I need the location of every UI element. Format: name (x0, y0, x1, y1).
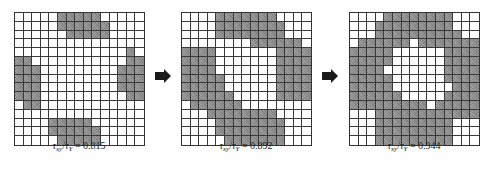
empty-cell (67, 57, 76, 66)
filled-cell (359, 75, 368, 84)
filled-cell (376, 48, 385, 57)
empty-cell (135, 39, 144, 48)
filled-cell (118, 83, 127, 92)
filled-cell (216, 119, 225, 128)
filled-cell (445, 127, 454, 136)
empty-cell (234, 75, 243, 84)
filled-cell (376, 83, 385, 92)
filled-cell (259, 110, 268, 119)
empty-cell (118, 31, 127, 40)
filled-cell (367, 75, 376, 84)
empty-cell (101, 110, 110, 119)
empty-cell (118, 57, 127, 66)
filled-cell (402, 22, 411, 31)
empty-cell (462, 22, 471, 31)
empty-cell (410, 57, 419, 66)
filled-cell (199, 83, 208, 92)
filled-cell (419, 110, 428, 119)
filled-cell (24, 92, 33, 101)
filled-cell (277, 83, 286, 92)
empty-cell (32, 119, 41, 128)
filled-cell (199, 92, 208, 101)
filled-cell (359, 48, 368, 57)
filled-cell (268, 22, 277, 31)
empty-cell (453, 119, 462, 128)
filled-cell (427, 110, 436, 119)
empty-cell (419, 75, 428, 84)
empty-cell (118, 39, 127, 48)
filled-cell (277, 127, 286, 136)
filled-cell (127, 66, 136, 75)
filled-cell (445, 13, 454, 22)
filled-cell (453, 66, 462, 75)
empty-cell (285, 22, 294, 31)
filled-cell (49, 119, 58, 128)
empty-cell (427, 83, 436, 92)
empty-cell (67, 92, 76, 101)
empty-cell (251, 92, 260, 101)
empty-cell (24, 127, 33, 136)
filled-cell (302, 48, 311, 57)
empty-cell (259, 83, 268, 92)
empty-cell (259, 57, 268, 66)
empty-cell (49, 101, 58, 110)
filled-cell (24, 57, 33, 66)
filled-cell (470, 57, 479, 66)
empty-cell (41, 119, 50, 128)
empty-cell (15, 48, 24, 57)
empty-cell (127, 119, 136, 128)
filled-cell (285, 92, 294, 101)
empty-cell (127, 22, 136, 31)
filled-cell (445, 39, 454, 48)
filled-cell (376, 31, 385, 40)
filled-cell (32, 92, 41, 101)
empty-cell (462, 119, 471, 128)
empty-cell (84, 101, 93, 110)
filled-cell (462, 110, 471, 119)
filled-cell (92, 22, 101, 31)
empty-cell (427, 101, 436, 110)
filled-cell (376, 127, 385, 136)
empty-cell (216, 48, 225, 57)
filled-cell (234, 13, 243, 22)
filled-cell (427, 127, 436, 136)
filled-cell (470, 101, 479, 110)
empty-cell (110, 83, 119, 92)
empty-cell (251, 75, 260, 84)
filled-cell (350, 66, 359, 75)
filled-cell (470, 66, 479, 75)
empty-cell (350, 13, 359, 22)
empty-cell (182, 110, 191, 119)
empty-cell (118, 127, 127, 136)
empty-cell (462, 13, 471, 22)
filled-cell (470, 48, 479, 57)
filled-cell (453, 48, 462, 57)
empty-cell (58, 101, 67, 110)
empty-cell (268, 66, 277, 75)
empty-cell (234, 92, 243, 101)
filled-cell (285, 39, 294, 48)
filled-cell (84, 22, 93, 31)
filled-cell (445, 22, 454, 31)
filled-cell (259, 31, 268, 40)
empty-cell (402, 48, 411, 57)
filled-cell (359, 92, 368, 101)
filled-cell (462, 66, 471, 75)
filled-cell (234, 22, 243, 31)
empty-cell (268, 101, 277, 110)
empty-cell (67, 110, 76, 119)
empty-cell (350, 110, 359, 119)
filled-cell (92, 31, 101, 40)
filled-cell (384, 110, 393, 119)
filled-cell (393, 92, 402, 101)
empty-cell (242, 75, 251, 84)
filled-cell (216, 101, 225, 110)
filled-cell (285, 83, 294, 92)
filled-cell (251, 22, 260, 31)
filled-cell (225, 101, 234, 110)
filled-cell (216, 13, 225, 22)
empty-cell (191, 22, 200, 31)
filled-cell (251, 39, 260, 48)
empty-cell (208, 119, 217, 128)
empty-cell (462, 31, 471, 40)
